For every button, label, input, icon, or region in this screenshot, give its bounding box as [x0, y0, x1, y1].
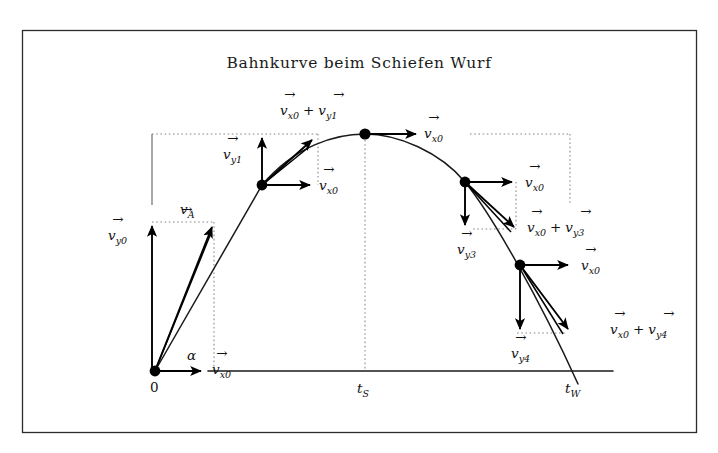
label-vy1-accent: → [227, 130, 238, 146]
label-vx0-p4: → vx0 [581, 241, 600, 276]
projectile-trajectory-diagram: Bahnkurve beim Schiefen Wurf → vA → vy0 … [0, 0, 718, 453]
label-vy0: → vy0 [108, 211, 127, 246]
svg-text:vx0: vx0 [424, 125, 443, 144]
label-vx0-origin-accent: → [216, 345, 227, 361]
label-sum4-accent-b: → [663, 305, 674, 321]
label-time-landing-sub: W [570, 388, 581, 399]
label-vy3: → vy3 [457, 225, 476, 260]
label-sum4-sub-b: y4 [655, 329, 667, 340]
point-origin-dot [150, 366, 161, 377]
figure-root: Bahnkurve beim Schiefen Wurf → vA → vy0 … [0, 0, 718, 453]
label-vx0-p4-sub: x0 [589, 265, 600, 276]
label-vy0-sub: y0 [115, 235, 127, 246]
label-vx0-p1-accent: → [323, 161, 334, 177]
label-sum1-sub-b: y1 [325, 110, 337, 121]
label-vx0-origin-sub: x0 [220, 369, 231, 380]
svg-text:vy0: vy0 [108, 227, 127, 246]
svg-text:vx0: vx0 [525, 174, 544, 193]
label-sum3-accent-b: → [580, 203, 591, 219]
label-time-apex-sub: S [362, 388, 369, 399]
label-vy4-accent: → [515, 329, 526, 345]
vector-vA-arrow-second-stroke [155, 233, 211, 371]
label-vy0-accent: → [112, 211, 123, 227]
label-sum1: → → vx0+vy1 [280, 86, 345, 121]
label-sum1-plus: + [303, 102, 314, 118]
label-sum3-accent-a: → [531, 203, 542, 219]
label-vx0-p1: → vx0 [319, 161, 338, 196]
label-sum4: → → vx0+vy4 [610, 305, 675, 340]
label-vx0-p3: → vx0 [525, 158, 544, 193]
svg-text:vx0+vy3: vx0+vy3 [527, 219, 584, 238]
label-vy4: → vy4 [511, 329, 530, 364]
label-vy4-sub: y4 [518, 353, 530, 364]
svg-text:vy4: vy4 [511, 345, 530, 364]
point-4-dot [515, 260, 526, 271]
figure-title: Bahnkurve beim Schiefen Wurf [226, 54, 492, 72]
svg-text:vx0: vx0 [319, 177, 338, 196]
label-time-landing: tW [565, 380, 581, 399]
point-3-dot [460, 177, 471, 188]
label-sum4-sub-a: x0 [618, 329, 629, 340]
label-vx0-p1-sub: x0 [327, 185, 338, 196]
label-sum3-plus: + [550, 219, 561, 235]
svg-text:vy1: vy1 [223, 146, 242, 165]
label-vx0-p3-accent: → [529, 158, 540, 174]
svg-text:vx0: vx0 [212, 361, 231, 380]
label-sum4-accent-a: → [614, 305, 625, 321]
label-sum4-plus: + [633, 321, 644, 337]
svg-text:vx0: vx0 [581, 257, 600, 276]
label-vy1: → vy1 [223, 130, 242, 165]
vector-sum1-second-stroke [262, 147, 309, 185]
svg-text:vy3: vy3 [457, 241, 476, 260]
label-origin: 0 [150, 379, 159, 395]
label-vy1-sub: y1 [230, 154, 242, 165]
label-vx0-apex: → vx0 [424, 109, 443, 144]
label-vx0-origin: → vx0 [212, 345, 231, 380]
vector-sum4-second-stroke [520, 265, 563, 334]
label-vx0-p4-accent: → [585, 241, 596, 257]
label-vy3-sub: y3 [464, 249, 476, 260]
label-vA-sub: A [187, 209, 195, 220]
label-vx0-apex-sub: x0 [432, 133, 443, 144]
label-sum1-accent-a: → [284, 86, 295, 102]
label-vA: → vA [180, 201, 195, 220]
label-vx0-apex-accent: → [428, 109, 439, 125]
label-sum3-sub-a: x0 [535, 227, 546, 238]
label-sum3: → → vx0+vy3 [527, 203, 592, 238]
figure-border [23, 31, 697, 433]
label-sum1-accent-b: → [333, 86, 344, 102]
point-1-dot [257, 180, 268, 191]
svg-text:vx0+vy4: vx0+vy4 [610, 321, 667, 340]
label-sum3-sub-b: y3 [572, 227, 584, 238]
vector-sum4-arrow [520, 265, 568, 329]
svg-text:vx0+vy1: vx0+vy1 [280, 102, 337, 121]
vector-sum3-arrow [465, 182, 514, 227]
label-angle-alpha: α [187, 347, 196, 363]
label-time-apex: tS [357, 380, 369, 399]
point-apex-dot [359, 128, 370, 139]
label-vx0-p3-sub: x0 [533, 182, 544, 193]
label-vy3-accent: → [461, 225, 472, 241]
label-sum1-sub-a: x0 [288, 110, 299, 121]
